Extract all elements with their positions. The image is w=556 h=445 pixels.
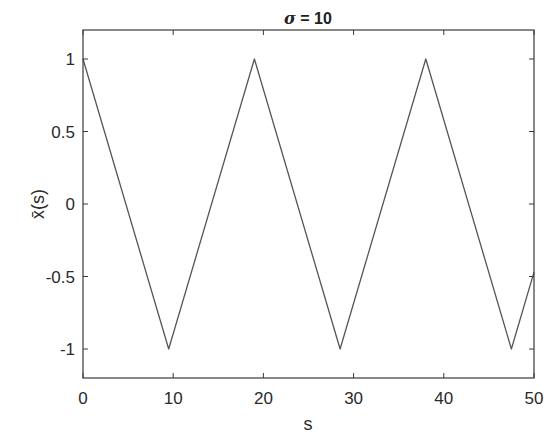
- chart-title: σ = 10: [284, 9, 332, 28]
- title-symbol: σ: [284, 9, 296, 28]
- series-layer: [83, 59, 534, 349]
- y-tick-label: 0.5: [51, 123, 75, 142]
- y-tick-label: -0.5: [46, 268, 75, 287]
- plot-area: 01020304050 -1-0.500.51: [46, 30, 544, 408]
- y-tick-label: 0: [66, 195, 75, 214]
- x-tick-label: 10: [164, 389, 183, 408]
- axes-box: [83, 30, 534, 378]
- x-tick-label: 0: [78, 389, 87, 408]
- x-tick-label: 40: [434, 389, 453, 408]
- x-tick-label: 30: [344, 389, 363, 408]
- x-axis-label: s: [304, 414, 313, 434]
- title-rest: = 10: [296, 10, 332, 27]
- y-tick-label: 1: [66, 50, 75, 69]
- y-tick-label: -1: [60, 340, 75, 359]
- y-axis-label: x̄(s): [28, 189, 48, 219]
- y-axis-ticks: -1-0.500.51: [46, 50, 534, 359]
- line-chart: σ = 10 01020304050 -1-0.500.51 s x̄(s): [0, 0, 556, 445]
- series-line-0: [83, 59, 534, 349]
- x-tick-label: 20: [254, 389, 273, 408]
- x-tick-label: 50: [525, 389, 544, 408]
